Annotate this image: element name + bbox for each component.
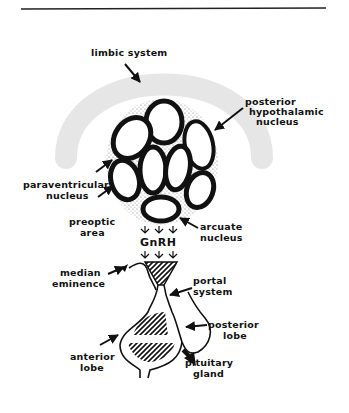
arrow-arcuate [180, 218, 198, 228]
label-gnrh: GnRH [140, 238, 177, 248]
label-preoptic-2: area [80, 228, 105, 238]
label-anterior-lobe-1: anterior [70, 352, 115, 362]
label-median-eminence-1: median [60, 268, 101, 278]
label-median-eminence-2: eminence [52, 279, 105, 289]
label-anterior-lobe-2: lobe [80, 363, 104, 373]
label-posterior-lobe-2: lobe [223, 331, 247, 341]
arrow-posterior-lobe [186, 325, 207, 327]
label-posterior-lobe-1: posterior [208, 320, 259, 330]
anterior-lobe-tissue-lower [128, 343, 175, 362]
label-paraventricular-2: nucleus [46, 191, 89, 201]
arrow-median-eminence [108, 267, 124, 274]
arrow-anterior-lobe [100, 335, 118, 345]
label-arcuate-1: arcuate [200, 222, 242, 232]
label-portal-2: system [193, 287, 233, 297]
label-paraventricular-1: paraventricular [23, 180, 109, 190]
label-pituitary-2: gland [193, 369, 224, 379]
label-posterior-hypothalamic-3: nucleus [256, 117, 299, 127]
label-preoptic-1: preoptic [69, 217, 115, 227]
hypothalamus-cluster [105, 99, 218, 225]
median-eminence-funnel [145, 262, 177, 285]
gnrh-arrows-top [141, 226, 177, 233]
label-portal-1: portal [193, 276, 226, 286]
label-arcuate-2: nucleus [200, 233, 243, 243]
hypothalamic-pituitary-diagram: limbic system posterior hypothalamic nuc… [0, 0, 349, 413]
diagram-canvas [0, 0, 349, 413]
label-pituitary-1: pituitary [185, 358, 233, 368]
anterior-lobe-tissue [133, 312, 168, 335]
top-rule [21, 8, 326, 9]
label-limbic-system: limbic system [91, 48, 167, 58]
gnrh-arrows-bottom [141, 251, 177, 258]
